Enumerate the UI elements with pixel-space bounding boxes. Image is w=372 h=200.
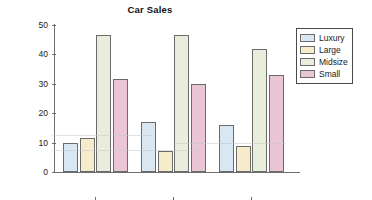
y-tick-mark	[52, 25, 56, 26]
y-tick-label: 30	[14, 79, 55, 89]
y-tick-mark	[52, 113, 56, 114]
bar-midsize-2000[interactable]	[174, 35, 189, 172]
bar-group	[219, 25, 284, 172]
legend-item-midsize[interactable]: Midsize	[300, 56, 348, 68]
x-tick-mark	[173, 197, 174, 200]
y-tick-mark	[52, 54, 56, 55]
bar-small-1985[interactable]	[113, 79, 128, 172]
bar-small-2007[interactable]	[269, 75, 284, 172]
bar-midsize-2007[interactable]	[252, 49, 267, 172]
x-tick-mark	[251, 197, 252, 200]
legend-label: Large	[319, 45, 341, 55]
legend-swatch-small	[300, 70, 315, 78]
legend-label: Luxury	[319, 33, 345, 43]
chart-legend: LuxuryLargeMidsizeSmall	[296, 28, 353, 84]
legend-item-small[interactable]: Small	[300, 68, 348, 80]
legend-swatch-large	[300, 46, 315, 54]
bar-small-2000[interactable]	[191, 84, 206, 172]
bar-luxury-2000[interactable]	[141, 122, 156, 172]
y-tick-label: 10	[14, 138, 55, 148]
chart-title: Car Sales	[0, 4, 300, 15]
legend-swatch-luxury	[300, 34, 315, 42]
bar-large-2000[interactable]	[158, 151, 173, 172]
y-tick-label: 20	[14, 108, 55, 118]
bar-large-2007[interactable]	[236, 146, 251, 172]
y-tick-label: 0	[14, 167, 55, 177]
legend-item-luxury[interactable]: Luxury	[300, 32, 348, 44]
bar-luxury-1985[interactable]	[63, 143, 78, 172]
bar-midsize-1985[interactable]	[96, 35, 111, 172]
scan-artifact-line	[176, 143, 286, 144]
y-tick-mark	[52, 84, 56, 85]
legend-item-large[interactable]: Large	[300, 44, 348, 56]
y-tick-mark	[52, 172, 56, 173]
y-tick-label: 40	[14, 49, 55, 59]
scan-artifact-line	[52, 150, 202, 151]
bar-luxury-2007[interactable]	[219, 125, 234, 172]
y-tick-label: 50	[14, 20, 55, 30]
y-tick-mark	[52, 143, 56, 144]
x-axis-line	[54, 172, 300, 173]
legend-label: Midsize	[319, 57, 348, 67]
x-tick-mark	[95, 197, 96, 200]
scan-artifact-line	[52, 135, 152, 136]
chart-container: Car Sales Percentage 01020304050 1985200…	[0, 0, 372, 200]
legend-label: Small	[319, 69, 340, 79]
legend-swatch-midsize	[300, 58, 315, 66]
bar-large-1985[interactable]	[80, 138, 95, 172]
